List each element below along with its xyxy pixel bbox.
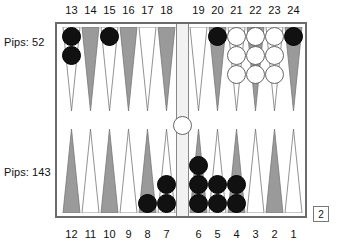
checker-white-on-bar[interactable] [173, 116, 192, 135]
point-number-3: 3 [246, 228, 266, 240]
checker-white-point-21[interactable] [227, 65, 246, 84]
point-number-19: 19 [189, 4, 209, 16]
point-number-7: 7 [157, 228, 177, 240]
point-3[interactable] [246, 129, 265, 213]
point-number-5: 5 [208, 228, 228, 240]
point-16[interactable] [119, 27, 138, 111]
checker-black-point-24[interactable] [284, 27, 303, 46]
point-number-2: 2 [265, 228, 285, 240]
point-number-15: 15 [100, 4, 120, 16]
point-1[interactable] [284, 129, 303, 213]
point-number-21: 21 [227, 4, 247, 16]
point-19[interactable] [189, 27, 208, 111]
checker-black-point-13[interactable] [62, 27, 81, 46]
point-number-10: 10 [100, 228, 120, 240]
point-number-20: 20 [208, 4, 228, 16]
checker-black-point-8[interactable] [138, 194, 157, 213]
point-number-22: 22 [246, 4, 266, 16]
point-12[interactable] [62, 129, 81, 213]
point-number-6: 6 [189, 228, 209, 240]
pips-count-bottom: Pips: 143 [4, 166, 51, 178]
checker-black-point-6[interactable] [189, 194, 208, 213]
point-number-24: 24 [284, 4, 304, 16]
point-number-8: 8 [138, 228, 158, 240]
point-number-17: 17 [138, 4, 158, 16]
point-number-18: 18 [157, 4, 177, 16]
point-number-12: 12 [62, 228, 82, 240]
checker-black-point-20[interactable] [208, 27, 227, 46]
checker-white-point-22[interactable] [246, 27, 265, 46]
point-number-11: 11 [81, 228, 101, 240]
checker-black-point-4[interactable] [227, 194, 246, 213]
checker-black-point-4[interactable] [227, 175, 246, 194]
checker-black-point-13[interactable] [62, 46, 81, 65]
point-2[interactable] [265, 129, 284, 213]
checker-white-point-23[interactable] [265, 65, 284, 84]
game-board[interactable] [55, 22, 307, 218]
checker-black-point-7[interactable] [157, 175, 176, 194]
backgammon-screenshot: Pips: 52 Pips: 143 131415161718192021222… [0, 0, 337, 248]
checker-black-point-6[interactable] [189, 156, 208, 175]
pips-count-top: Pips: 52 [4, 36, 45, 48]
point-number-4: 4 [227, 228, 247, 240]
point-number-23: 23 [265, 4, 285, 16]
checker-black-point-6[interactable] [189, 175, 208, 194]
checker-white-point-23[interactable] [265, 46, 284, 65]
point-10[interactable] [100, 129, 119, 213]
board-playing-surface [57, 24, 305, 216]
checker-black-point-5[interactable] [208, 194, 227, 213]
checker-white-point-22[interactable] [246, 46, 265, 65]
point-number-13: 13 [62, 4, 82, 16]
point-number-14: 14 [81, 4, 101, 16]
checker-white-point-21[interactable] [227, 46, 246, 65]
checker-black-point-5[interactable] [208, 175, 227, 194]
checker-white-point-21[interactable] [227, 27, 246, 46]
checker-black-point-15[interactable] [100, 27, 119, 46]
point-9[interactable] [119, 129, 138, 213]
point-14[interactable] [81, 27, 100, 111]
point-number-9: 9 [119, 228, 139, 240]
point-11[interactable] [81, 129, 100, 213]
checker-white-point-22[interactable] [246, 65, 265, 84]
point-number-16: 16 [119, 4, 139, 16]
checker-black-point-7[interactable] [157, 194, 176, 213]
doubling-cube[interactable]: 2 [313, 206, 329, 222]
point-18[interactable] [157, 27, 176, 111]
checker-white-point-23[interactable] [265, 27, 284, 46]
point-number-1: 1 [284, 228, 304, 240]
point-17[interactable] [138, 27, 157, 111]
